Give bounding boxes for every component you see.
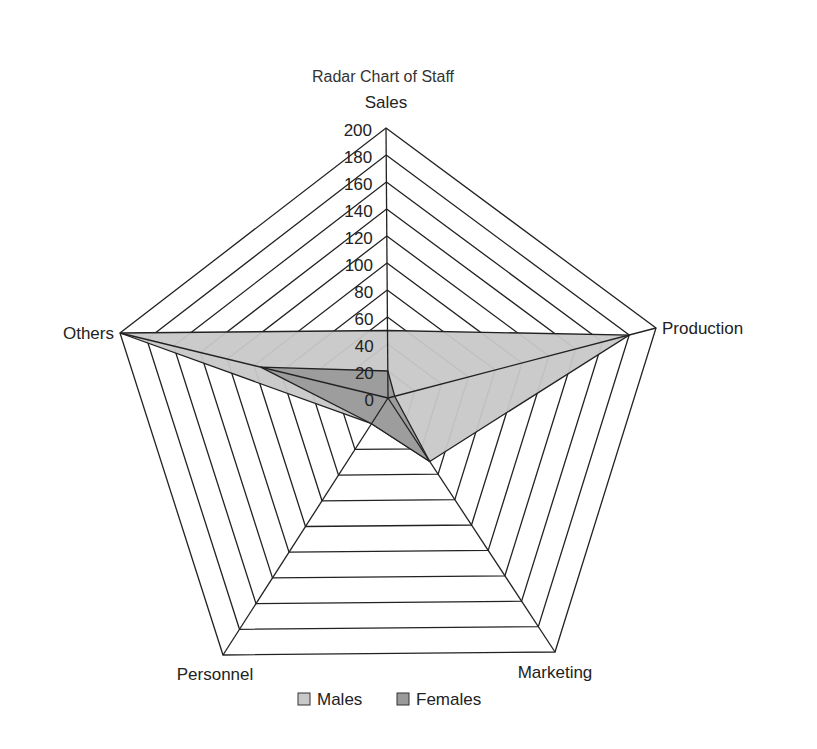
radar-axes — [120, 128, 656, 655]
legend-swatch-males — [298, 693, 310, 705]
legend-label-males: Males — [317, 690, 362, 709]
radar-series — [120, 331, 629, 462]
category-label-production: Production — [662, 319, 743, 338]
tick-label: 0 — [365, 391, 374, 410]
category-label-marketing: Marketing — [518, 663, 593, 682]
category-label-others: Others — [63, 324, 114, 343]
tick-label: 180 — [344, 148, 372, 167]
tick-label: 120 — [344, 229, 372, 248]
category-label-sales: Sales — [365, 93, 408, 112]
category-label-personnel: Personnel — [177, 665, 254, 684]
tick-label: 40 — [355, 337, 374, 356]
tick-label: 140 — [344, 202, 372, 221]
tick-label: 100 — [345, 256, 373, 275]
tick-label: 160 — [344, 175, 372, 194]
tick-label: 80 — [354, 283, 373, 302]
tick-label: 20 — [355, 364, 374, 383]
chart-title: Radar Chart of Staff — [312, 68, 455, 85]
legend-swatch-females — [397, 693, 409, 705]
radar-chart: Radar Chart of Staff 0204060801001201401… — [0, 0, 817, 749]
legend-label-females: Females — [416, 690, 481, 709]
tick-label: 200 — [344, 121, 372, 140]
tick-label: 60 — [354, 310, 373, 329]
legend: MalesFemales — [298, 690, 481, 709]
